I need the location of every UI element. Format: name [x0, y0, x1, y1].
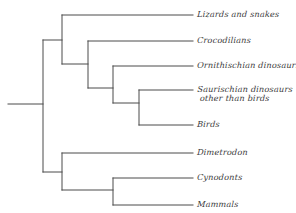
taxon-label-ornithischian: Ornithischian dinosaurs [197, 61, 296, 70]
cladogram-svg [0, 0, 296, 213]
taxon-label-lizards: Lizards and snakes [197, 10, 280, 19]
taxon-label-mammals: Mammals [197, 200, 239, 209]
taxon-label-birds: Birds [197, 120, 220, 129]
taxon-label-saurischian-line2: other than birds [200, 94, 270, 103]
taxon-label-crocodilians: Crocodilians [197, 36, 251, 45]
taxon-label-dimetrodon: Dimetrodon [197, 148, 248, 157]
taxon-label-cynodonts: Cynodonts [197, 173, 243, 182]
taxon-label-saurischian: Saurischian dinosaursother than birds [197, 85, 293, 104]
